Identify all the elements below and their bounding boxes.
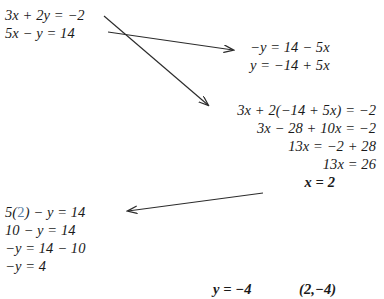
back-substitute-prefix: 5( <box>5 204 17 220</box>
x-solution: x = 2 <box>155 173 376 191</box>
arrow-to-substitute-icon <box>104 16 208 105</box>
substitute-line-2: 3x − 28 + 10x = −2 <box>155 119 376 137</box>
back-substitute-step-block: 5(2) − y = 14 10 − y = 14 −y = 14 − 10 −… <box>5 203 86 275</box>
isolate-step-block: −y = 14 − 5x y = −14 + 5x <box>250 38 330 74</box>
substituted-x-value: 2 <box>17 204 24 220</box>
back-substitute-line-3: −y = 14 − 10 <box>5 239 86 257</box>
substitute-line-3: 13x = −2 + 28 <box>155 137 376 155</box>
substitute-step-block: 3x + 2(−14 + 5x) = −2 3x − 28 + 10x = −2… <box>155 101 376 191</box>
y-solution: y = −4 <box>213 280 252 298</box>
substitute-line-1: 3x + 2(−14 + 5x) = −2 <box>155 101 376 119</box>
substitute-line-4: 13x = 26 <box>155 155 376 173</box>
back-substitute-suffix: ) − y = 14 <box>25 204 86 220</box>
back-substitute-line-1: 5(2) − y = 14 <box>5 203 86 221</box>
original-system-block: 3x + 2y = −2 5x − y = 14 <box>5 6 85 42</box>
back-substitute-line-2: 10 − y = 14 <box>5 221 86 239</box>
isolate-line-1: −y = 14 − 5x <box>250 38 330 56</box>
back-substitute-line-4: −y = 4 <box>5 257 86 275</box>
equation-1: 3x + 2y = −2 <box>5 6 85 24</box>
ordered-pair-solution: (2,−4) <box>299 280 336 298</box>
worked-solution-figure: 3x + 2y = −2 5x − y = 14 −y = 14 − 5x y … <box>0 0 384 299</box>
equation-2: 5x − y = 14 <box>5 24 85 42</box>
arrow-to-back-substitute-icon <box>128 193 263 211</box>
arrow-to-isolate-icon <box>108 32 233 50</box>
isolate-line-2: y = −14 + 5x <box>250 56 330 74</box>
